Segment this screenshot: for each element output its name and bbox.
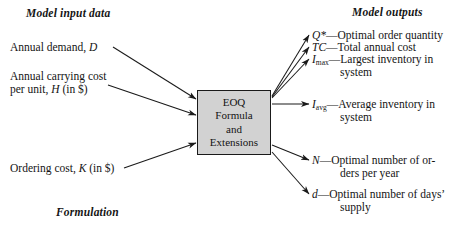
output-symbol-subscript: avg bbox=[316, 103, 327, 112]
input-text: Ordering cost, bbox=[10, 162, 79, 174]
input-unit: (in $) bbox=[86, 162, 114, 174]
output-symbol: TC bbox=[312, 41, 326, 53]
output-description: Total annual cost bbox=[338, 41, 416, 53]
input-symbol: H bbox=[51, 83, 59, 95]
output-description-cont: supply bbox=[340, 201, 371, 213]
connector-total-annual-cost bbox=[272, 47, 309, 97]
input-section-heading: Model input data bbox=[26, 7, 110, 19]
output-symbol: Iavg bbox=[312, 98, 327, 110]
output-label-optimal-number-days: d—Optimal number of days’ bbox=[312, 188, 445, 202]
output-label-average-inventory-cont: system bbox=[340, 111, 372, 125]
figure-caption: Formulation bbox=[56, 206, 119, 218]
output-label-largest-inventory: Imax—Largest inventory in bbox=[312, 53, 433, 68]
output-description: Optimal order quantity bbox=[338, 29, 443, 41]
box-line: Formula bbox=[215, 109, 252, 123]
output-description-cont: system bbox=[340, 66, 372, 78]
connector-ordering-cost bbox=[124, 143, 196, 168]
input-label-carrying-cost-line2: per unit, H (in $) bbox=[10, 83, 88, 97]
connector-carrying-cost bbox=[108, 85, 196, 115]
output-label-largest-inventory-cont: system bbox=[340, 66, 372, 80]
output-symbol: Imax bbox=[312, 53, 329, 65]
output-label-optimal-number-orders-cont: ders per year bbox=[340, 167, 399, 181]
output-symbol-subscript: max bbox=[316, 58, 329, 67]
input-symbol: D bbox=[89, 41, 97, 53]
output-description: Optimal number of days’ bbox=[329, 188, 445, 200]
output-description: Optimal number of or- bbox=[331, 154, 435, 166]
input-text: Annual carrying cost bbox=[10, 70, 106, 82]
output-description: Largest inventory in bbox=[340, 53, 433, 65]
input-unit: (in $) bbox=[60, 83, 88, 95]
box-line: and bbox=[226, 123, 242, 137]
output-label-optimal-number-orders: N—Optimal number of or- bbox=[312, 154, 435, 168]
em-dash: — bbox=[326, 29, 338, 41]
input-label-ordering-cost: Ordering cost, K (in $) bbox=[10, 162, 114, 176]
input-label-annual-demand: Annual demand, D bbox=[10, 41, 97, 55]
input-label-carrying-cost-line1: Annual carrying cost bbox=[10, 70, 106, 84]
em-dash: — bbox=[318, 188, 330, 200]
output-label-average-inventory: Iavg—Average inventory in bbox=[312, 98, 435, 113]
em-dash: — bbox=[326, 41, 338, 53]
output-label-optimal-number-days-cont: supply bbox=[340, 201, 371, 215]
output-description: Average inventory in bbox=[338, 98, 435, 110]
box-line: EOQ bbox=[223, 96, 246, 110]
em-dash: — bbox=[329, 53, 341, 65]
box-line: Extensions bbox=[210, 136, 258, 150]
output-symbol: N bbox=[312, 154, 320, 166]
eoq-formula-box: EOQ Formula and Extensions bbox=[197, 90, 271, 155]
output-description-cont: system bbox=[340, 111, 372, 123]
em-dash: — bbox=[320, 154, 332, 166]
input-text: Annual demand, bbox=[10, 41, 89, 53]
em-dash: — bbox=[327, 98, 339, 110]
output-description-cont: ders per year bbox=[340, 167, 399, 179]
output-symbol: Q* bbox=[312, 29, 326, 41]
eoq-model-diagram: Model input data Model outputs Annual de… bbox=[0, 0, 467, 232]
input-text: per unit, bbox=[10, 83, 51, 95]
output-section-heading: Model outputs bbox=[352, 6, 423, 18]
